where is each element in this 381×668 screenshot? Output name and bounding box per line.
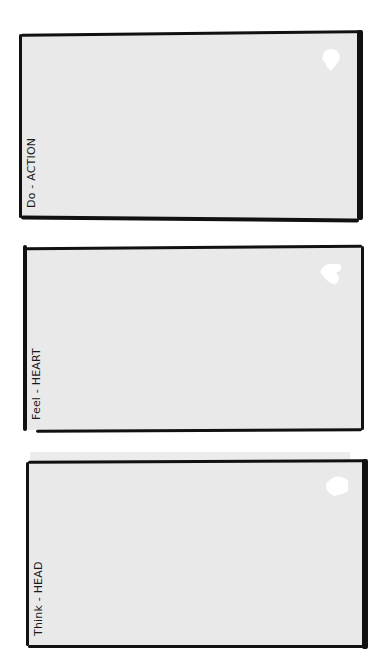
card-top-border [21,30,359,37]
card-right-border [357,30,363,220]
card-bottom-border [21,216,359,223]
card-bottom-border [28,645,364,648]
card-left-border [23,245,27,431]
card-top-border [26,245,362,250]
card-bottom-border [36,428,362,433]
card-think-head: Think - HEAD [28,462,364,646]
head-icon [324,474,350,500]
card-label: Think - HEAD [32,561,45,636]
heart-icon [318,260,344,286]
card-do-action: Do - ACTION [21,34,359,218]
card-left-border [26,462,29,646]
card-right-border [362,459,368,649]
card-top-border [28,459,364,464]
card-right-border [361,246,364,430]
card-label: Do - ACTION [25,138,38,208]
card-label: Feel - HEART [30,348,43,420]
card-left-border [19,34,22,218]
card-feel-heart: Feel - HEART [26,248,362,430]
hand-icon [317,47,343,73]
